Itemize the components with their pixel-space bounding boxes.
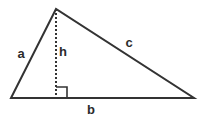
triangle-diagram: a h c b <box>0 0 203 122</box>
label-side-a: a <box>17 47 24 60</box>
right-angle-marker-icon <box>56 87 67 98</box>
triangle-outline-path <box>11 9 194 98</box>
triangle-figure <box>0 0 203 122</box>
label-side-b: b <box>87 103 95 116</box>
label-altitude-h: h <box>59 45 67 58</box>
label-side-c: c <box>125 36 132 49</box>
